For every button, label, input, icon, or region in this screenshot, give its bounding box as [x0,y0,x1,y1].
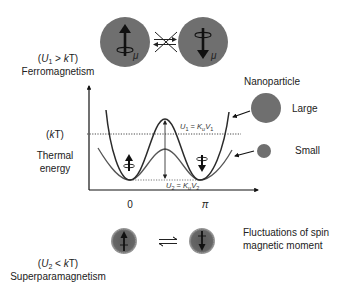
u2-barrier-label: U2 = KuV2 [166,181,199,191]
x-tick-0: 0 [127,199,133,210]
fluctuations-line2: magnetic moment [243,240,323,251]
fluctuations-line1: Fluctuations of spin [243,227,329,238]
large-nanoparticle [251,93,281,123]
ferro-sphere-right: μ [178,17,228,67]
spin-down-arrow-icon [197,155,208,172]
superparamagnetism-label: Superparamagnetism [10,271,106,282]
nanoparticle-title: Nanoparticle [244,76,301,87]
kT-label: (kT) [46,129,64,140]
x-tick-pi: π [202,199,209,210]
thermal-label: Thermal [37,150,74,161]
ferromagnetism-label: Ferromagnetism [22,66,95,77]
energy-axes [89,86,258,190]
ferro-condition: (U1 > kT) [38,53,78,65]
spin-up-arrow-icon [124,154,135,171]
large-label: Large [292,103,318,114]
superparamagnetism-diagram: μ μ (U1 > kT) Ferromagnetism [0,0,345,292]
moment-symbol: μ [132,50,139,61]
large-particle-energy-curve [106,110,229,180]
superpara-sphere-right [189,228,215,254]
large-pointer-arrow [233,111,250,117]
equilibrium-arrows-icon [159,237,177,246]
small-label: Small [295,145,320,156]
u1-barrier-label: U1 = KuV1 [180,122,213,132]
ferro-sphere-left: μ [100,17,150,67]
superpara-sphere-left [111,228,137,254]
small-nanoparticle [257,144,271,158]
crossed-equilibrium-arrows-icon [154,32,177,52]
superpara-condition: (U2 < kT) [38,258,78,270]
small-pointer-arrow [235,151,254,156]
energy-label: energy [40,163,71,174]
moment-symbol: μ [210,50,217,61]
